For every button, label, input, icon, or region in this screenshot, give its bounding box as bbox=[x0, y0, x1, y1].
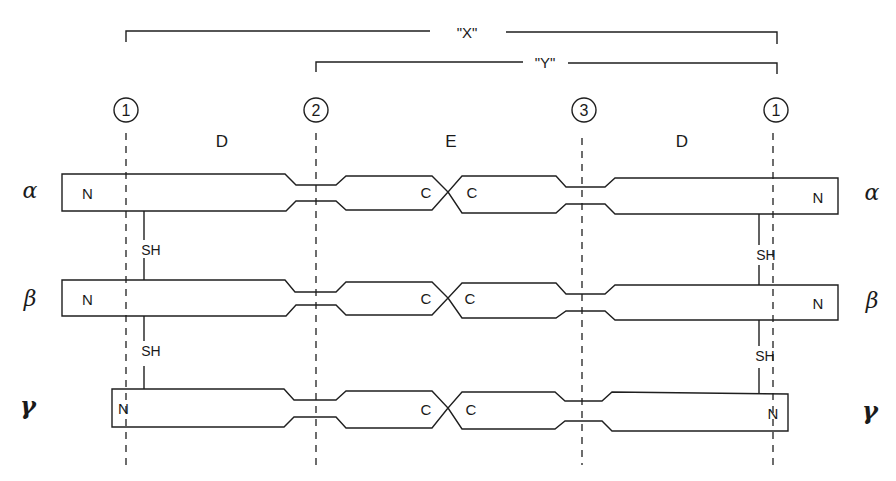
alpha-c-right: C bbox=[467, 184, 478, 201]
bracket-x-label: "X" bbox=[457, 24, 478, 41]
gamma-n-left: N bbox=[118, 400, 129, 417]
domain-d-right: D bbox=[676, 132, 688, 151]
bracket-x: "X" bbox=[126, 24, 777, 44]
cleavage-site-3: 3 bbox=[572, 98, 596, 122]
bracket-y: "Y" bbox=[316, 54, 777, 74]
domain-e: E bbox=[445, 132, 456, 151]
site-number: 1 bbox=[772, 102, 781, 119]
chain-alpha: N C C N bbox=[62, 174, 838, 214]
sh-label: SH bbox=[141, 242, 160, 258]
disulfide-left-beta-gamma: SH bbox=[141, 316, 160, 389]
fibrinogen-chain-diagram: "X" "Y" 1 2 3 1 D E D N C C N bbox=[0, 0, 896, 481]
cleavage-site-2: 2 bbox=[304, 98, 328, 122]
chain-beta: N C C N bbox=[62, 280, 838, 320]
beta-left-half bbox=[62, 280, 448, 316]
site-number: 2 bbox=[312, 102, 321, 119]
alpha-c-left: C bbox=[421, 184, 432, 201]
alpha-label-left: α bbox=[23, 178, 38, 203]
cleavage-site-1-left: 1 bbox=[114, 98, 138, 122]
cleavage-site-1-right: 1 bbox=[764, 98, 788, 122]
gamma-right-half bbox=[448, 392, 788, 431]
bracket-y-label: "Y" bbox=[535, 54, 556, 71]
gamma-c-left: C bbox=[421, 401, 432, 418]
domain-d-left: D bbox=[216, 132, 228, 151]
alpha-left-half bbox=[62, 174, 448, 211]
alpha-label-right: α bbox=[865, 180, 880, 205]
site-number: 1 bbox=[122, 102, 131, 119]
alpha-n-right: N bbox=[813, 189, 824, 206]
beta-right-half bbox=[448, 283, 838, 320]
beta-n-left: N bbox=[82, 291, 93, 308]
gamma-left-half bbox=[112, 389, 448, 428]
gamma-label-right: γ bbox=[862, 396, 879, 425]
site-number: 3 bbox=[580, 102, 589, 119]
gamma-c-right: C bbox=[466, 401, 477, 418]
sh-label: SH bbox=[756, 247, 775, 263]
beta-c-left: C bbox=[421, 290, 432, 307]
gamma-n-right: N bbox=[768, 405, 779, 422]
sh-label: SH bbox=[141, 343, 160, 359]
disulfide-right-beta-gamma: SH bbox=[755, 320, 774, 393]
beta-n-right: N bbox=[813, 295, 824, 312]
chain-gamma: N C C N bbox=[112, 389, 788, 431]
disulfide-left-alpha-beta: SH bbox=[141, 211, 160, 280]
beta-c-right: C bbox=[465, 290, 476, 307]
beta-label-left: β bbox=[23, 286, 37, 311]
gamma-label-left: γ bbox=[20, 391, 37, 420]
alpha-n-left: N bbox=[82, 185, 93, 202]
beta-label-right: β bbox=[865, 288, 879, 313]
alpha-right-half bbox=[448, 176, 838, 214]
sh-label: SH bbox=[755, 348, 774, 364]
